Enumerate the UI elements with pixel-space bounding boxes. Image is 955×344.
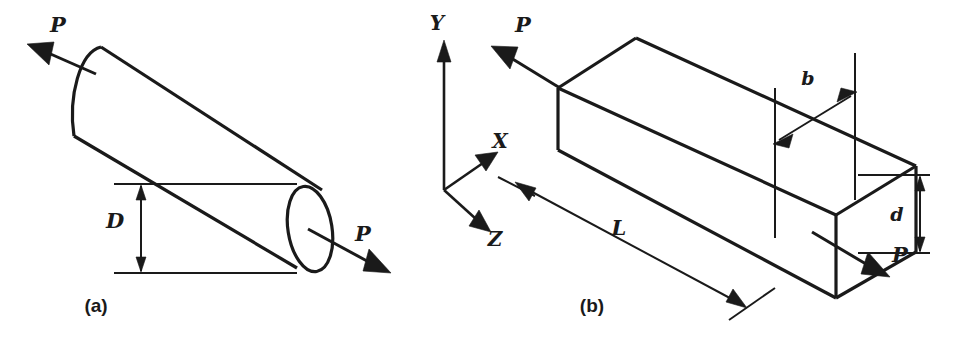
technical-figure-container: D P P (a) Y — [0, 0, 955, 344]
width-dimension-line — [779, 96, 851, 140]
panel-b-caption: (b) — [580, 295, 604, 316]
width-label: b — [801, 67, 814, 89]
prism-edge-top-right-short — [836, 166, 916, 215]
axis-x-label: X — [490, 129, 509, 153]
length-label: L — [611, 215, 627, 240]
panel-a-caption: (a) — [84, 295, 107, 316]
panel-a-group: D P P (a) — [27, 12, 391, 316]
cylinder-left-cap — [72, 47, 101, 136]
axis-y-label: Y — [430, 11, 446, 35]
force-right-b-label: P — [891, 242, 909, 267]
force-left-a-label: P — [49, 12, 67, 37]
axis-y-arrowhead — [437, 40, 451, 62]
force-arrow-right-b: P — [812, 232, 909, 277]
force-arrow-left-a: P — [27, 12, 96, 74]
diameter-label: D — [105, 208, 125, 233]
length-arrowhead-lower-right — [726, 289, 747, 308]
force-right-a-arrowhead — [363, 249, 391, 273]
force-arrow-left-b: P — [491, 12, 560, 88]
axis-x-arrowhead — [475, 152, 498, 171]
force-left-b-arrowhead — [491, 46, 518, 69]
axis-z-shaft — [444, 190, 476, 219]
prism-edge-top-front-long — [558, 88, 836, 215]
diameter-arrowhead-up — [136, 185, 146, 200]
prism-edge-top-left-to-apex — [558, 38, 636, 88]
prism-body — [558, 38, 916, 298]
force-right-a-label: P — [354, 221, 372, 246]
length-arrowhead-upper-left — [515, 182, 536, 201]
depth-label: d — [890, 203, 903, 225]
cylinder-body — [72, 47, 338, 275]
force-right-b-shaft — [812, 232, 866, 264]
length-dimension-line — [521, 186, 741, 304]
force-right-b-arrowhead — [861, 252, 890, 277]
panel-b-group: Y X Z — [430, 11, 930, 320]
diameter-dimension-group: D — [105, 184, 297, 273]
cylinder-bottom-edge — [74, 136, 297, 268]
axis-z-label: Z — [487, 227, 504, 251]
force-arrow-right-a: P — [308, 221, 391, 273]
diameter-arrowhead-down — [136, 257, 146, 272]
axially-loaded-bars-figure: D P P (a) Y — [0, 0, 955, 344]
force-left-b-label: P — [514, 12, 532, 37]
force-left-b-shaft — [511, 58, 560, 88]
force-left-a-arrowhead — [27, 42, 54, 65]
prism-edge-bottom-front-long — [558, 150, 836, 298]
axis-x-shaft — [444, 163, 483, 190]
cylinder-top-edge — [101, 47, 322, 190]
length-dimension-group: L — [498, 177, 775, 320]
